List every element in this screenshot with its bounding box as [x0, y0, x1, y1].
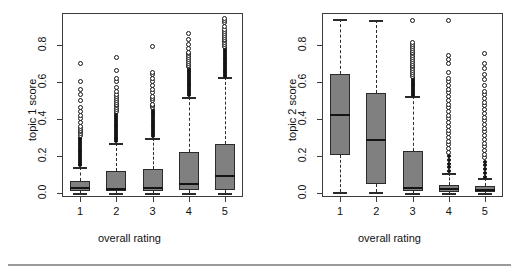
y-tick-label: 0.8	[36, 31, 48, 57]
outlier-point	[483, 175, 487, 179]
whisker-line	[225, 77, 226, 144]
x-tick-mark	[340, 197, 341, 202]
whisker-cap	[109, 193, 123, 195]
y-tick-label: 0.6	[296, 68, 308, 94]
outlier-point	[447, 165, 451, 169]
y-tick-label: 0.6	[36, 68, 48, 94]
x-tick-label: 1	[65, 205, 95, 217]
x-tick-mark	[449, 197, 450, 202]
whisker-cap	[405, 193, 419, 195]
x-tick-mark	[376, 197, 377, 202]
whisker-line	[116, 143, 117, 171]
outlier-point	[78, 92, 83, 97]
whisker-cap	[333, 19, 347, 21]
outlier-point	[78, 61, 83, 66]
median-line	[439, 188, 459, 190]
x-tick-mark	[116, 197, 117, 202]
outlier-point	[114, 85, 119, 90]
outlier-point	[114, 76, 119, 81]
median-line	[179, 183, 199, 185]
y-tick-mark	[57, 82, 62, 83]
whisker-cap	[442, 173, 456, 175]
whisker-cap	[73, 193, 87, 195]
y-tick-mark	[317, 45, 322, 46]
panel-topic-1: topic 1 score overall rating 0.00.20.40.…	[0, 0, 259, 275]
y-tick-label: 0.8	[296, 31, 308, 57]
median-line	[215, 175, 235, 177]
y-tick-mark	[57, 193, 62, 194]
outlier-point	[78, 98, 83, 103]
whisker-cap	[478, 193, 492, 195]
outlier-point	[447, 158, 451, 162]
x-tick-mark	[153, 197, 154, 202]
whisker-cap	[145, 193, 159, 195]
y-tick-mark	[57, 45, 62, 46]
median-line	[403, 187, 423, 189]
whisker-cap	[478, 178, 492, 180]
box-5	[215, 144, 235, 190]
x-tick-label: 1	[325, 205, 355, 217]
median-line	[366, 139, 386, 141]
x-tick-label: 3	[138, 205, 168, 217]
x-tick-mark	[413, 197, 414, 202]
x-tick-label: 4	[434, 205, 464, 217]
whisker-line	[340, 155, 341, 192]
whisker-cap	[73, 167, 87, 169]
outlier-point	[410, 18, 415, 23]
y-tick-label: 0.0	[36, 179, 48, 205]
whisker-cap	[109, 143, 123, 145]
whisker-cap	[182, 193, 196, 195]
y-tick-mark	[57, 119, 62, 120]
whisker-line	[153, 138, 154, 170]
median-line	[475, 189, 495, 191]
whisker-cap	[442, 193, 456, 195]
x-axis-label-right: overall rating	[260, 232, 519, 244]
outlier-point	[446, 76, 451, 81]
whisker-line	[189, 97, 190, 153]
whisker-cap	[369, 20, 383, 22]
whisker-cap	[218, 193, 232, 195]
y-tick-mark	[317, 119, 322, 120]
outlier-point	[114, 68, 119, 73]
outlier-point	[150, 44, 155, 49]
x-tick-mark	[189, 197, 190, 202]
outlier-point	[483, 160, 487, 164]
whisker-line	[376, 184, 377, 192]
outlier-point	[483, 167, 487, 171]
whisker-line	[376, 20, 377, 93]
x-tick-label: 3	[398, 205, 428, 217]
panel-topic-2: topic 2 score overall rating 0.00.20.40.…	[260, 0, 519, 275]
outlier-point	[447, 169, 451, 173]
outlier-point	[114, 55, 119, 60]
x-tick-mark	[485, 197, 486, 202]
outlier-point	[78, 105, 83, 110]
x-tick-label: 2	[361, 205, 391, 217]
x-tick-label: 5	[210, 205, 240, 217]
outlier-point	[150, 70, 155, 75]
outlier-point	[483, 171, 487, 175]
outlier-point	[78, 79, 83, 84]
whisker-line	[80, 167, 81, 181]
y-tick-label: 0.2	[36, 142, 48, 168]
x-tick-label: 2	[101, 205, 131, 217]
outlier-point	[186, 37, 191, 42]
box-3	[403, 151, 423, 191]
whisker-cap	[182, 97, 196, 99]
x-tick-mark	[225, 197, 226, 202]
y-tick-label: 0.2	[296, 142, 308, 168]
boxplot-figure: topic 1 score overall rating 0.00.20.40.…	[0, 0, 519, 275]
y-tick-mark	[317, 82, 322, 83]
footer-rule	[8, 264, 511, 266]
y-tick-mark	[317, 156, 322, 157]
median-line	[143, 187, 163, 189]
whisker-line	[413, 96, 414, 152]
outlier-point	[447, 162, 451, 166]
median-line	[70, 187, 90, 189]
median-line	[106, 188, 126, 190]
y-tick-label: 0.4	[36, 105, 48, 131]
x-tick-label: 5	[470, 205, 500, 217]
y-tick-label: 0.0	[296, 179, 308, 205]
whisker-cap	[145, 138, 159, 140]
x-tick-label: 4	[174, 205, 204, 217]
y-tick-mark	[57, 156, 62, 157]
